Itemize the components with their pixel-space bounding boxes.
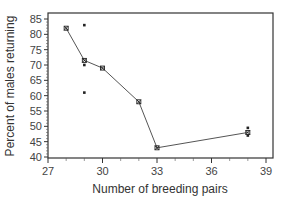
chart: 40455055606570758085 2730333639 Number o… <box>0 0 289 203</box>
observation-point <box>247 134 250 137</box>
y-tick-label: 50 <box>30 120 42 132</box>
mean-line-series <box>64 26 250 150</box>
y-tick-label: 85 <box>30 13 42 25</box>
y-tick-label: 80 <box>30 28 42 40</box>
y-tick-label: 75 <box>30 44 42 56</box>
y-axis-ticks: 40455055606570758085 <box>30 13 48 163</box>
x-tick-label: 33 <box>151 165 163 177</box>
observation-point <box>83 24 86 27</box>
observation-scatter-series <box>83 24 249 137</box>
observation-point <box>83 91 86 94</box>
y-tick-label: 45 <box>30 136 42 148</box>
observation-point <box>247 127 250 130</box>
x-axis-label: Number of breeding pairs <box>92 182 227 196</box>
x-axis-ticks: 2730333639 <box>42 158 272 177</box>
mean-line <box>66 28 248 148</box>
y-axis-label: Percent of males returning <box>3 16 17 157</box>
observation-point <box>83 64 86 67</box>
x-tick-label: 39 <box>260 165 272 177</box>
x-tick-label: 30 <box>96 165 108 177</box>
y-tick-label: 70 <box>30 59 42 71</box>
x-tick-label: 36 <box>205 165 217 177</box>
plot-frame <box>48 13 273 158</box>
y-tick-label: 60 <box>30 90 42 102</box>
y-tick-label: 65 <box>30 74 42 86</box>
x-tick-label: 27 <box>42 165 54 177</box>
y-tick-label: 55 <box>30 105 42 117</box>
y-tick-label: 40 <box>30 151 42 163</box>
